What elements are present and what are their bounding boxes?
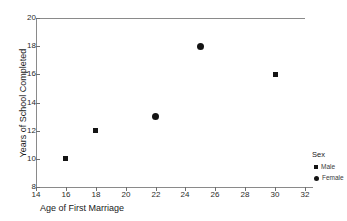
y-tick-20 (36, 18, 40, 19)
x-tick-label-28: 28 (235, 190, 255, 199)
y-tick-18 (36, 46, 40, 47)
x-tick-label-14: 14 (26, 190, 46, 199)
y-tick-label-16: 16 (27, 70, 36, 78)
x-tick-label-26: 26 (205, 190, 225, 199)
y-tick-16 (36, 74, 40, 75)
x-axis-line (36, 187, 313, 188)
y-tick-label-18: 18 (27, 42, 36, 50)
legend: Sex Male Female (312, 150, 347, 183)
data-point-male-16-10[interactable] (63, 156, 68, 161)
x-tick-label-24: 24 (175, 190, 195, 199)
data-point-male-18-12[interactable] (93, 128, 98, 133)
circle-marker-icon (314, 176, 319, 181)
legend-item-male[interactable]: Male (312, 162, 347, 172)
scatter-plot-figure: 8101214161820 14161820222426283032 Years… (0, 0, 347, 221)
x-tick-label-22: 22 (146, 190, 166, 199)
x-tick-label-16: 16 (56, 190, 76, 199)
legend-label-male: Male (321, 163, 335, 171)
x-tick-label-18: 18 (86, 190, 106, 199)
x-tick-label-32: 32 (295, 190, 315, 199)
y-tick-label-10: 10 (27, 155, 36, 163)
plot-area (36, 18, 305, 187)
x-tick-label-30: 30 (265, 190, 285, 199)
legend-item-female[interactable]: Female (312, 173, 347, 183)
legend-title: Sex (312, 150, 347, 159)
data-point-male-30-16[interactable] (273, 72, 278, 77)
legend-label-female: Female (322, 174, 344, 182)
x-tick-label-20: 20 (116, 190, 136, 199)
x-axis-title: Age of First Marriage (40, 203, 124, 213)
y-tick-label-12: 12 (27, 127, 36, 135)
y-axis-title: Years of School Completed (18, 18, 28, 188)
data-point-female-25-18[interactable] (197, 43, 204, 50)
y-tick-14 (36, 103, 40, 104)
y-tick-label-14: 14 (27, 99, 36, 107)
y-tick-label-20: 20 (27, 14, 36, 22)
square-marker-icon (314, 165, 318, 169)
y-tick-12 (36, 131, 40, 132)
y-tick-10 (36, 159, 40, 160)
